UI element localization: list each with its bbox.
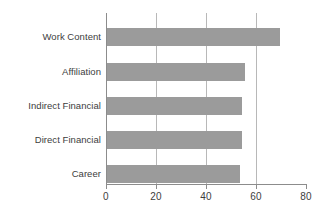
bar-career	[107, 165, 240, 183]
x-tick-label-40: 40	[186, 191, 226, 203]
bar-chart: Work Content Affiliation Indirect Financ…	[0, 0, 323, 220]
category-label: Affiliation	[0, 63, 101, 81]
tick-mark-80	[306, 185, 307, 189]
category-label: Career	[0, 165, 101, 183]
bar-affiliation	[107, 63, 245, 81]
bar-work-content	[107, 28, 280, 46]
category-label: Direct Financial	[0, 131, 101, 149]
tick-mark-0	[106, 185, 107, 189]
x-tick-label-0: 0	[86, 191, 126, 203]
tick-mark-60	[256, 185, 257, 189]
bar-indirect-financial	[107, 97, 242, 115]
bar-direct-financial	[107, 131, 242, 149]
category-label: Work Content	[0, 28, 101, 46]
tick-mark-20	[156, 185, 157, 189]
y-axis-line	[106, 13, 107, 185]
x-tick-label-60: 60	[236, 191, 276, 203]
x-tick-label-20: 20	[136, 191, 176, 203]
x-tick-label-80: 80	[286, 191, 323, 203]
tick-mark-40	[206, 185, 207, 189]
category-label: Indirect Financial	[0, 97, 101, 115]
